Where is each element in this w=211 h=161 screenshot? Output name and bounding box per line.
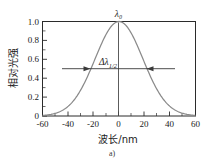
x-tick-label: -40 <box>62 119 74 129</box>
y-tick-label: 0.2 <box>28 92 39 102</box>
spectral-bandwidth-chart: 1.0 0.8 0.6 0.4 0.2 0 -60 -40 <box>0 0 211 161</box>
fwhm-delta-symbol: Δλ <box>98 57 109 67</box>
x-tick-label: 60 <box>191 119 201 129</box>
x-axis-title: 波长/nm <box>98 133 137 145</box>
x-tick-label: 40 <box>165 119 175 129</box>
peak-wavelength-label: λ₀ <box>114 9 122 19</box>
x-tick-label: -20 <box>87 119 99 129</box>
y-tick-label: 1.0 <box>28 17 40 27</box>
x-tick-label: 0 <box>116 119 121 129</box>
x-tick-label: 20 <box>140 119 150 129</box>
y-tick-label: 0.6 <box>28 54 40 64</box>
x-tick-label: -60 <box>37 119 49 129</box>
y-tick-label: 0.4 <box>28 73 40 83</box>
fwhm-subscript: 1/2 <box>109 62 118 69</box>
y-axis-title: 相对光强 <box>7 48 19 88</box>
figure-container: 1.0 0.8 0.6 0.4 0.2 0 -60 -40 <box>0 0 211 161</box>
y-tick-label: 0.8 <box>28 35 40 45</box>
figure-caption: a) <box>109 149 116 158</box>
